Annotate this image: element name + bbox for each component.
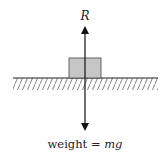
weight-label: weight = mg	[48, 137, 123, 151]
weight-arrow-head-icon	[81, 123, 89, 131]
reaction-arrow-head-icon	[81, 26, 89, 34]
weight-symbol: mg	[104, 137, 122, 151]
reaction-force-label: R	[79, 9, 89, 23]
force-diagram: R weight = mg	[0, 0, 168, 161]
weight-text: weight =	[48, 137, 105, 151]
